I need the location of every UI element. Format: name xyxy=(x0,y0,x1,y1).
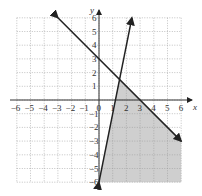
x-axis-label: x xyxy=(192,102,197,112)
x-tick-label: −2 xyxy=(66,103,76,113)
x-tick-label: 5 xyxy=(165,103,170,113)
y-tick-label: −6 xyxy=(89,177,99,187)
x-tick-label: 6 xyxy=(179,103,184,113)
x-tick-label: −1 xyxy=(79,103,89,113)
y-tick-label: 6 xyxy=(92,13,97,23)
x-tick-label: −5 xyxy=(25,103,35,113)
y-tick-label: 5 xyxy=(92,27,97,37)
y-tick-label: −2 xyxy=(89,122,99,132)
y-tick-label: 1 xyxy=(92,81,97,91)
x-tick-label: 2 xyxy=(124,103,128,113)
y-tick-label: 2 xyxy=(92,68,97,78)
x-tick-label: −4 xyxy=(38,103,48,113)
x-tick-label: −3 xyxy=(52,103,62,113)
y-tick-label: 4 xyxy=(92,40,97,50)
y-tick-label: −1 xyxy=(89,109,99,119)
x-tick-label: 3 xyxy=(138,103,143,113)
x-tick-label: −6 xyxy=(11,103,21,113)
y-tick-label: −3 xyxy=(89,136,99,146)
y-tick-label: −5 xyxy=(89,164,99,174)
graph: xy−6−5−4−3−2−10123456−6−5−4−3−2−1123456 xyxy=(0,0,202,196)
y-tick-label: −4 xyxy=(89,150,99,160)
